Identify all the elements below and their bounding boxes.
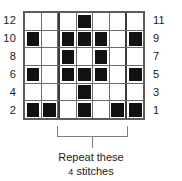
chart-cell-filled [93,31,110,48]
chart-cell-filled [127,31,143,48]
chart-cell-filled [110,101,128,118]
chart-cell-filled [58,48,77,65]
caption-line-1: Repeat these [0,150,182,164]
chart-cell-empty [110,84,128,101]
repeat-caption: Repeat these 4 stitches [0,150,182,179]
row-label-right: 7 [148,47,159,65]
chart-cell-empty [58,13,77,30]
caption-stitches-word: stitches [76,165,113,177]
chart-cell-empty [25,48,42,65]
chart-cell-empty [127,13,143,30]
row-label-left: 8 [10,47,20,65]
chart-cell-filled [77,13,94,30]
chart-cell-empty [93,13,110,30]
row-label-right: 1 [148,102,159,120]
chart-cell-filled [58,66,77,83]
row-label-right: 3 [148,84,159,102]
row-labels-left: 12 10 8 6 4 2 [0,11,20,120]
chart-cell-filled [77,84,94,101]
chart-row [25,84,143,102]
chart-cell-empty [42,31,59,48]
row-label-left: 12 [3,11,20,29]
chart-cell-empty [77,48,94,65]
chart-cell-filled [42,101,59,118]
chart-cell-empty [93,101,110,118]
chart-cell-filled [77,31,94,48]
chart-row [25,13,143,31]
chart-row [25,48,143,66]
caption-line-2: 4 stitches [0,164,182,179]
chart-cell-empty [42,66,59,83]
chart-cell-filled [127,66,143,83]
chart-cell-empty [110,31,128,48]
stitch-chart: 12 10 8 6 4 2 11 9 7 5 3 1 Repeat these … [0,0,182,181]
chart-cell-empty [25,84,42,101]
row-label-left: 6 [10,66,20,84]
chart-cell-empty [93,84,110,101]
row-label-left: 2 [10,102,20,120]
row-labels-right: 11 9 7 5 3 1 [148,11,168,120]
row-label-right: 5 [148,66,159,84]
chart-cell-filled [58,31,77,48]
chart-cell-empty [127,48,143,65]
row-label-left: 10 [3,29,20,47]
chart-cell-filled [93,66,110,83]
chart-cell-filled [93,48,110,65]
chart-row [25,101,143,118]
row-label-right: 11 [148,11,165,29]
chart-cell-empty [42,84,59,101]
chart-cell-empty [42,48,59,65]
chart-cell-filled [127,101,143,118]
chart-cell-filled [77,66,94,83]
chart-grid [23,11,145,120]
row-label-right: 9 [148,29,159,47]
chart-cell-empty [110,48,128,65]
row-label-left: 4 [10,84,20,102]
chart-cell-filled [25,101,42,118]
repeat-bracket [57,126,128,137]
chart-cell-empty [25,13,42,30]
chart-cell-filled [25,31,42,48]
chart-cell-filled [25,66,42,83]
chart-cell-empty [110,66,128,83]
stitch-count: 4 [68,167,73,177]
chart-cell-empty [127,84,143,101]
chart-cell-empty [110,13,128,30]
chart-cell-filled [77,101,94,118]
chart-cell-empty [42,13,59,30]
chart-row [25,31,143,49]
chart-cell-empty [58,101,77,118]
chart-cell-empty [58,84,77,101]
chart-row [25,66,143,84]
repeat-bracket-stem [92,137,93,148]
